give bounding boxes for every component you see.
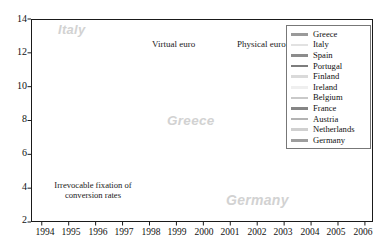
- chart-figure: 14 12 10 8 6 4 2 1994 1995 1996 1997 199…: [0, 0, 383, 247]
- legend-swatch-icon: [291, 33, 308, 36]
- watermark-germany: Germany: [226, 192, 289, 208]
- legend-item-netherlands[interactable]: Netherlands: [287, 124, 370, 135]
- fixation-annotation-line1: Irrevocable fixation of: [38, 180, 148, 190]
- virtual-euro-label: Virtual euro: [152, 39, 195, 49]
- legend-swatch-icon: [291, 65, 308, 68]
- legend-swatch-icon: [291, 128, 308, 131]
- legend-swatch-icon: [291, 97, 308, 100]
- legend-item-germany[interactable]: Germany: [287, 135, 370, 146]
- legend-swatch-icon: [291, 44, 308, 47]
- legend-label: Spain: [313, 51, 333, 60]
- legend-label: Netherlands: [313, 125, 355, 134]
- legend-swatch-icon: [291, 139, 308, 142]
- legend-label: Italy: [313, 40, 329, 49]
- legend-item-france[interactable]: France: [287, 103, 370, 114]
- legend-label: Germany: [313, 136, 345, 145]
- legend-item-austria[interactable]: Austria: [287, 114, 370, 125]
- legend-label: Ireland: [313, 83, 337, 92]
- legend-item-ireland[interactable]: Ireland: [287, 82, 370, 93]
- legend-item-spain[interactable]: Spain: [287, 50, 370, 61]
- legend-item-portugal[interactable]: Portugal: [287, 61, 370, 72]
- legend-item-italy[interactable]: Italy: [287, 40, 370, 51]
- legend-item-finland[interactable]: Finland: [287, 71, 370, 82]
- legend-label: Greece: [313, 30, 337, 39]
- legend-swatch-icon: [291, 118, 308, 121]
- legend-label: Finland: [313, 72, 339, 81]
- legend: GreeceItalySpainPortugalFinlandIrelandBe…: [286, 25, 371, 149]
- legend-swatch-icon: [291, 75, 308, 78]
- legend-label: Belgium: [313, 93, 343, 102]
- fixation-annotation-line2: conversion rates: [38, 190, 148, 200]
- legend-swatch-icon: [291, 86, 308, 89]
- legend-label: France: [313, 104, 336, 113]
- legend-item-belgium[interactable]: Belgium: [287, 93, 370, 104]
- legend-swatch-icon: [291, 54, 308, 57]
- legend-item-greece[interactable]: Greece: [287, 29, 370, 40]
- physical-euro-label: Physical euro: [237, 39, 286, 49]
- watermark-italy: Italy: [58, 22, 86, 37]
- legend-swatch-icon: [291, 107, 308, 110]
- legend-label: Portugal: [313, 62, 342, 71]
- legend-label: Austria: [313, 115, 338, 124]
- watermark-greece: Greece: [167, 113, 215, 128]
